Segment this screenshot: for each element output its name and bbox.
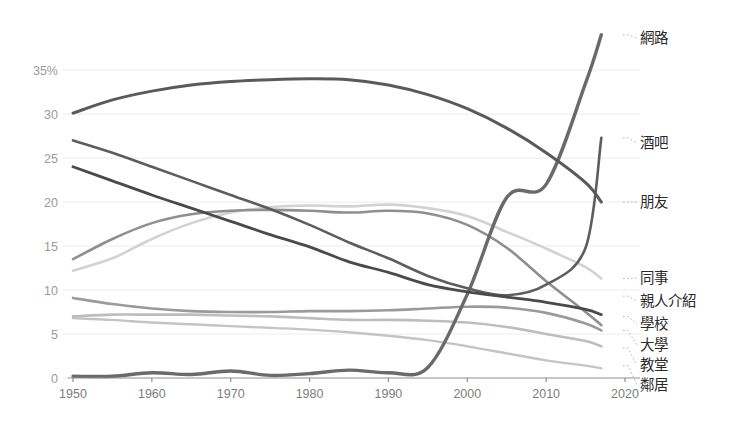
line-chart: 05101520253035% 195019601970198019902000…: [0, 0, 744, 435]
y-axis-tick-label: 10: [44, 284, 58, 298]
legend-label-4: 親人介紹: [640, 293, 696, 309]
legend-label-2: 朋友: [640, 194, 668, 210]
y-axis-tick-label: 0: [51, 372, 58, 386]
legend-label-7: 教堂: [640, 357, 668, 373]
x-axis-tick-label: 2020: [611, 387, 639, 401]
x-axis-tick-label: 2000: [453, 387, 481, 401]
x-axis-tick-label: 1970: [217, 387, 245, 401]
legend-leader-5: [623, 316, 637, 324]
x-axis-tick-label: 1980: [296, 387, 324, 401]
y-axis-tick-label: 5: [51, 328, 58, 342]
legend-label-1: 酒吧: [640, 135, 669, 151]
legend-leader-7: [623, 348, 637, 365]
y-axis-tick-label: 30: [44, 108, 58, 122]
y-axis-tick-label: 15: [44, 240, 58, 254]
x-axis-tick-label: 1950: [59, 387, 87, 401]
x-axis-tick-label: 1990: [375, 387, 403, 401]
series-line-2: [73, 79, 601, 202]
legend-leader-lines: [623, 35, 637, 385]
legend-label-0: 網路: [640, 30, 669, 46]
legend-leader-1: [623, 138, 637, 143]
legend-label-3: 同事: [640, 270, 668, 286]
gridlines: [68, 70, 640, 334]
legend-leader-8: [623, 366, 637, 385]
series-line-3: [73, 205, 601, 279]
legend-leader-4: [623, 296, 637, 301]
legend-labels: 網路酒吧朋友同事親人介紹學校大學教堂鄰居: [640, 30, 696, 393]
legend-label-8: 鄰居: [640, 377, 668, 393]
x-axis-tick-label: 2010: [532, 387, 560, 401]
series-layer: [73, 35, 601, 377]
x-axis-ticks: 19501960197019801990200020102020: [59, 378, 639, 401]
legend-label-6: 大學: [640, 336, 668, 353]
x-axis-tick-label: 1960: [138, 387, 166, 401]
legend-leader-6: [623, 330, 637, 345]
y-axis-tick-label: 35%: [33, 64, 58, 78]
legend-leader-3: [623, 278, 637, 279]
series-line-1: [73, 138, 601, 296]
chart-container: 05101520253035% 195019601970198019902000…: [0, 0, 744, 435]
legend-leader-0: [623, 35, 637, 38]
legend-label-5: 學校: [640, 315, 668, 332]
series-line-8: [73, 318, 601, 368]
y-axis-tick-label: 25: [44, 152, 58, 166]
y-axis-tick-label: 20: [44, 196, 58, 210]
y-axis-ticks: 05101520253035%: [33, 64, 68, 386]
